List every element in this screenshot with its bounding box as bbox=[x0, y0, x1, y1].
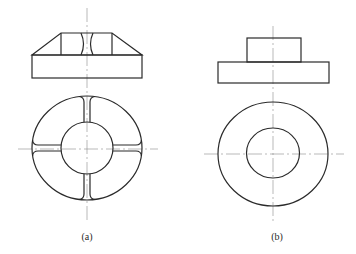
caption-b: (b) bbox=[271, 231, 283, 242]
base-plate-b bbox=[218, 62, 329, 83]
rib-left-a bbox=[33, 140, 62, 156]
slot-arc-left-a bbox=[81, 33, 84, 55]
caption-a: (a) bbox=[81, 231, 92, 242]
slot-arc-right-a bbox=[91, 33, 94, 55]
technical-drawing bbox=[0, 0, 356, 254]
boss-b bbox=[247, 38, 301, 62]
rib-right-a bbox=[113, 140, 142, 156]
panel-b bbox=[204, 26, 344, 222]
panel-a bbox=[18, 8, 158, 222]
